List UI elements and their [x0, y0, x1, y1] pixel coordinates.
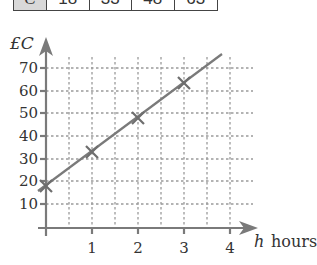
y-tick-label: 40 — [19, 127, 38, 145]
y-tick-label: 10 — [19, 195, 38, 213]
data-line — [38, 54, 222, 191]
grid — [46, 57, 253, 228]
y-tick-label: 60 — [19, 82, 38, 100]
line-chart: 70 60 50 40 30 20 10 1 2 3 4 £C h hours — [0, 0, 317, 265]
x-tick-label: 4 — [225, 239, 235, 257]
y-tick-label: 70 — [19, 59, 38, 77]
y-tick-label: 30 — [19, 150, 38, 168]
x-axis-variable: h — [254, 232, 264, 251]
x-tick-label: 1 — [87, 239, 97, 257]
y-axis-label: £C — [9, 33, 34, 53]
y-tick-label: 50 — [19, 104, 38, 122]
x-tick-label: 2 — [133, 239, 143, 257]
y-tick-label: 20 — [19, 172, 38, 190]
x-tick-label: 3 — [179, 239, 189, 257]
x-axis-unit: hours — [271, 232, 317, 251]
